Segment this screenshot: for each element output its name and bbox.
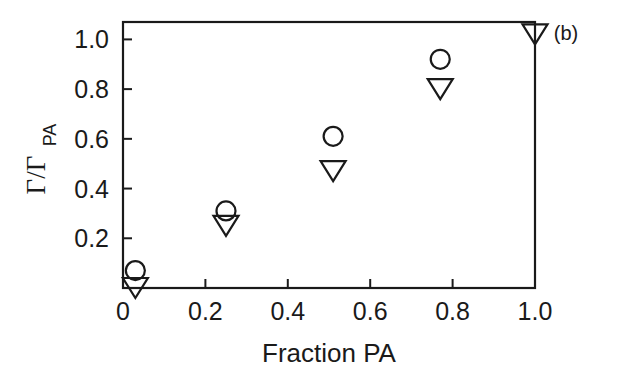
x-axis-ticks — [205, 279, 452, 288]
marker-triangle-down — [214, 216, 239, 236]
y-tick-label-1: 1.0 — [74, 25, 109, 53]
x-tick-label-0.8: 0.8 — [435, 297, 470, 325]
marker-triangle-down — [321, 161, 346, 181]
y-tick-label-0.6: 0.6 — [74, 125, 109, 153]
marker-triangle-down — [428, 79, 453, 99]
x-axis-tick-labels: 00.20.40.60.81.0 — [116, 297, 552, 325]
x-axis-title: Fraction PA — [262, 338, 397, 368]
marker-circle — [431, 50, 450, 69]
x-tick-label-0.4: 0.4 — [270, 297, 305, 325]
y-tick-label-0.2: 0.2 — [74, 224, 109, 252]
y-axis-title-subscript: PA — [40, 124, 60, 147]
series-open-down-triangle — [123, 24, 548, 298]
figure-panel-b: 00.20.40.60.81.0 0.20.40.60.81.0 Fractio… — [0, 0, 627, 380]
y-axis-tick-labels: 0.20.40.60.81.0 — [74, 25, 109, 252]
y-axis-ticks — [123, 39, 132, 238]
x-tick-label-1: 1.0 — [518, 297, 553, 325]
y-tick-label-0.4: 0.4 — [74, 175, 109, 203]
data-markers — [123, 24, 548, 298]
scatter-plot: 00.20.40.60.81.0 0.20.40.60.81.0 Fractio… — [0, 0, 627, 380]
panel-label: (b) — [554, 22, 578, 44]
plot-frame-box — [123, 22, 535, 288]
y-axis-title: Γ/Γ PA — [21, 124, 60, 195]
y-tick-label-0.8: 0.8 — [74, 75, 109, 103]
marker-circle — [217, 201, 236, 220]
x-tick-label-0.6: 0.6 — [353, 297, 388, 325]
y-axis-title-main: Γ/Γ — [21, 156, 51, 195]
x-tick-label-0.2: 0.2 — [188, 297, 223, 325]
marker-circle — [324, 127, 343, 146]
series-open-circle — [126, 50, 450, 280]
plot-frame — [123, 22, 535, 288]
x-tick-label-0: 0 — [116, 297, 130, 325]
